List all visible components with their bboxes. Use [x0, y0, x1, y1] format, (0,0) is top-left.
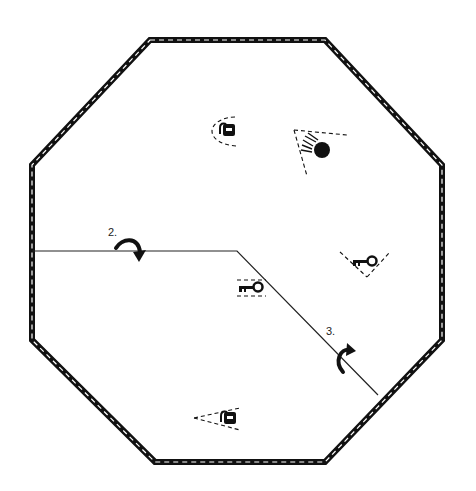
padlock-icon: [194, 408, 240, 430]
padlock-icon: [212, 117, 236, 146]
step-3-label: 3.: [326, 325, 335, 337]
octagon-floor-plan: 2. 3.: [0, 0, 476, 491]
key-icon: [237, 280, 266, 296]
camera-icon: [294, 130, 347, 176]
step-2-label: 2.: [108, 226, 117, 238]
route-path: [32, 251, 378, 395]
key-icon: [340, 252, 390, 277]
